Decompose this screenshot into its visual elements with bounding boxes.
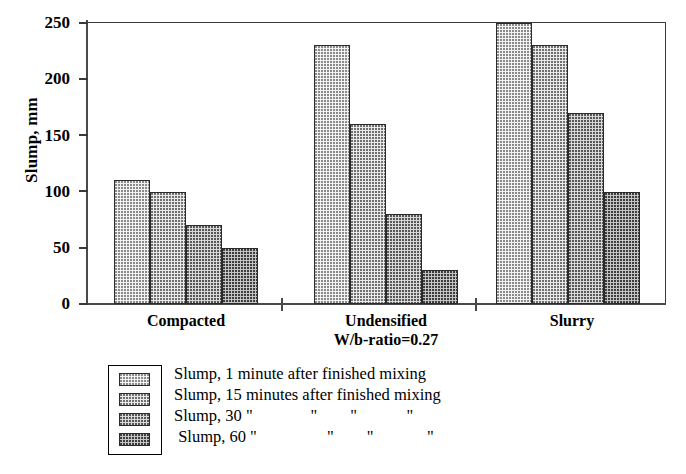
legend-swatch-series4	[119, 433, 150, 446]
legend-item-series4: Slump, 60 " " " "	[174, 426, 614, 447]
group-label-slurry-text: Slurry	[550, 312, 594, 329]
group-label-slurry: Slurry	[462, 311, 682, 330]
bar-undensified-series4	[422, 270, 458, 304]
bar-slurry-series1	[496, 23, 532, 304]
legend-item-series1: Slump, 1 minute after finished mixing	[174, 363, 614, 384]
cut-off-caption	[250, 462, 686, 474]
group-sublabel-wb-ratio: W/b-ratio=0.27	[276, 330, 496, 349]
legend-swatch-series3	[119, 413, 150, 426]
bar-compacted-series4	[222, 248, 258, 304]
bar-slurry-series3	[568, 113, 604, 304]
bar-undensified-series1	[314, 45, 350, 304]
legend-swatch-series2	[119, 393, 150, 406]
group-label-compacted: Compacted	[76, 311, 296, 330]
legend-text-column: Slump, 1 minute after finished mixing Sl…	[174, 363, 614, 447]
legend-item-series2: Slump, 15 minutes after finished mixing	[174, 384, 614, 405]
bar-undensified-series3	[386, 214, 422, 304]
bar-slurry-series4	[604, 192, 640, 304]
bar-compacted-series2	[150, 192, 186, 304]
bar-undensified-series2	[350, 124, 386, 304]
bar-compacted-series3	[186, 225, 222, 304]
slump-bar-chart: Slump, mm 250 200 150 100 50 0 Compacted	[0, 0, 686, 474]
group-label-compacted-text: Compacted	[147, 312, 225, 329]
group-label-undensified-text: Undensified	[345, 312, 427, 329]
bar-compacted-series1	[114, 180, 150, 304]
bar-slurry-series2	[532, 45, 568, 304]
legend-swatch-series1	[119, 373, 150, 386]
legend-item-series3: Slump, 30 " " " "	[174, 405, 614, 426]
